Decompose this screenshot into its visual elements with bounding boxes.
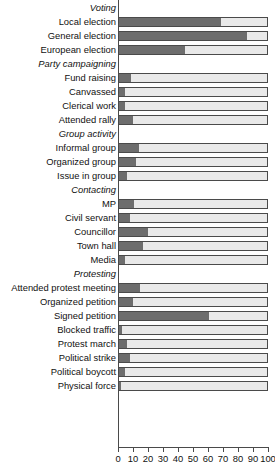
x-axis-tick: [118, 448, 119, 452]
bar-row: Attended rally: [0, 113, 275, 127]
bar-area: [118, 283, 268, 293]
section-header-row: Protesting: [0, 267, 275, 281]
section-header-label: Group activity: [59, 127, 116, 141]
bar-area: [118, 17, 268, 27]
bar-row: Physical force: [0, 379, 275, 393]
bar-track: [118, 31, 268, 41]
bar-row-label: Town hall: [77, 239, 116, 253]
bar-row: MP: [0, 197, 275, 211]
bar-area: [118, 73, 268, 83]
bar-track: [118, 227, 268, 237]
bar-track: [118, 381, 268, 391]
bar-fill: [119, 242, 143, 250]
section-header-label: Contacting: [71, 183, 116, 197]
bar-area: [118, 87, 268, 97]
bar-track: [118, 339, 268, 349]
bar-row-label: Organized group: [46, 155, 116, 169]
bar-area: [118, 325, 268, 335]
x-axis-tick-label: 10: [128, 453, 138, 464]
bar-fill: [119, 158, 136, 166]
bar-area: [118, 31, 268, 41]
bar-row-label: Political boycott: [51, 365, 116, 379]
bar-row-label: European election: [40, 43, 116, 57]
bar-row-label: Physical force: [58, 379, 116, 393]
bar-track: [118, 311, 268, 321]
x-axis-tick-label: 0: [115, 453, 120, 464]
x-axis-tick: [238, 448, 239, 452]
x-axis-tick-label: 70: [218, 453, 228, 464]
bar-fill: [119, 256, 125, 264]
bar-area: [118, 311, 268, 321]
bar-row-label: Civil servant: [65, 211, 116, 225]
section-header-label: Protesting: [74, 267, 116, 281]
bar-track: [118, 101, 268, 111]
bar-row: Canvassed: [0, 85, 275, 99]
bar-area: [118, 297, 268, 307]
bar-row: Councillor: [0, 225, 275, 239]
bar-row-label: Informal group: [56, 141, 116, 155]
bar-fill: [119, 368, 125, 376]
bar-row-label: Issue in group: [57, 169, 116, 183]
bar-area: [118, 241, 268, 251]
bar-row-label: Councillor: [74, 225, 116, 239]
bar-area: [118, 171, 268, 181]
bar-track: [118, 283, 268, 293]
bar-track: [118, 87, 268, 97]
bar-track: [118, 255, 268, 265]
bar-track: [118, 297, 268, 307]
bar-area: [118, 255, 268, 265]
bar-track: [118, 115, 268, 125]
bar-fill: [119, 214, 130, 222]
bar-area: [118, 353, 268, 363]
bar-row-label: General election: [48, 29, 116, 43]
x-axis-tick: [133, 448, 134, 452]
x-axis-tick-label: 80: [233, 453, 243, 464]
bar-track: [118, 157, 268, 167]
bar-row-label: Attended rally: [59, 113, 116, 127]
bar-area: [118, 227, 268, 237]
section-header-row: Party campaigning: [0, 57, 275, 71]
bar-row: Blocked traffic: [0, 323, 275, 337]
bar-fill: [119, 18, 221, 26]
bar-row-label: Local election: [59, 15, 116, 29]
bar-fill: [119, 116, 133, 124]
bar-fill: [119, 46, 185, 54]
bar-row-label: Protest march: [58, 337, 116, 351]
bar-fill: [119, 298, 133, 306]
bar-track: [118, 73, 268, 83]
x-axis-tick: [208, 448, 209, 452]
bar-fill: [119, 312, 209, 320]
bar-fill: [119, 88, 125, 96]
bar-row: Media: [0, 253, 275, 267]
bar-row: Organized group: [0, 155, 275, 169]
bar-fill: [119, 172, 127, 180]
bar-row-label: Clerical work: [62, 99, 116, 113]
bar-area: [118, 199, 268, 209]
bar-fill: [119, 228, 148, 236]
section-header-row: Group activity: [0, 127, 275, 141]
bar-row-label: MP: [102, 197, 116, 211]
bar-area: [118, 157, 268, 167]
bar-row: Issue in group: [0, 169, 275, 183]
bar-track: [118, 143, 268, 153]
bar-track: [118, 213, 268, 223]
bar-area: [118, 143, 268, 153]
bar-track: [118, 171, 268, 181]
bar-row: Fund raising: [0, 71, 275, 85]
bar-row: Clerical work: [0, 99, 275, 113]
bar-area: [118, 367, 268, 377]
bar-row-label: Political strike: [59, 351, 116, 365]
x-axis-tick: [163, 448, 164, 452]
bar-track: [118, 45, 268, 55]
bar-track: [118, 325, 268, 335]
section-header-label: Voting: [90, 1, 116, 15]
x-axis-tick-label: 40: [173, 453, 183, 464]
x-axis-tick-label: 20: [143, 453, 153, 464]
bar-row-label: Signed petition: [54, 309, 116, 323]
x-axis-tick: [178, 448, 179, 452]
bar-row: Organized petition: [0, 295, 275, 309]
x-axis-tick: [268, 448, 269, 452]
bar-area: [118, 213, 268, 223]
bar-fill: [119, 200, 134, 208]
bar-area: [118, 381, 268, 391]
